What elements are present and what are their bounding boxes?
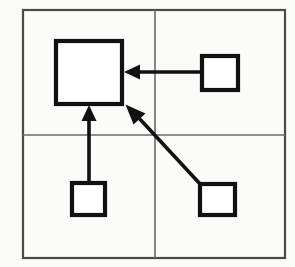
node-small-square-bottom-right: [200, 184, 235, 215]
node-small-square-top-right: [202, 56, 238, 90]
node-small-square-bottom-left: [72, 183, 105, 215]
diagram-canvas: [0, 0, 295, 267]
node-large-square: [56, 41, 122, 104]
quadrant-diagram: [0, 0, 295, 267]
diagram-background: [0, 0, 295, 267]
